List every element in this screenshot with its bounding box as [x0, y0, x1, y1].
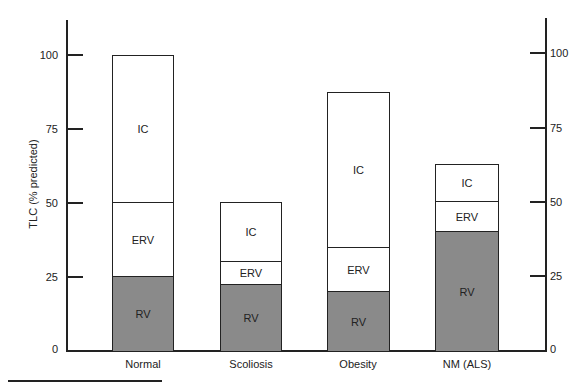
left-tick-label-0: 0 [28, 343, 58, 355]
right-tick-label-50: 50 [550, 196, 580, 208]
segment-ic: IC [112, 55, 174, 203]
segment-rv: RV [112, 276, 174, 352]
left-y-axis [66, 20, 68, 352]
right-tick-label-25: 25 [550, 270, 580, 282]
segment-label: IC [246, 226, 257, 238]
segment-label: RV [243, 312, 258, 324]
segment-label: ERV [347, 264, 369, 276]
y-axis-label: TLC (% predicted) [27, 124, 39, 244]
left-tick-50 [68, 202, 83, 204]
segment-erv: ERV [327, 247, 390, 292]
category-label-normal: Normal [93, 358, 193, 370]
segment-ic: IC [327, 92, 390, 248]
segment-label: IC [462, 177, 473, 189]
segment-erv: ERV [112, 202, 174, 277]
segment-erv: ERV [435, 201, 499, 232]
segment-label: IC [353, 164, 364, 176]
segment-label: RV [135, 308, 150, 320]
right-tick-label-0: 0 [550, 343, 580, 355]
left-tick-label-25: 25 [28, 271, 58, 283]
category-label-obesity: Obesity [308, 358, 408, 370]
left-tick-75 [68, 128, 83, 130]
left-tick-25 [68, 276, 83, 278]
segment-rv: RV [327, 291, 390, 352]
category-label-nm-als: NM (ALS) [417, 358, 517, 370]
segment-rv: RV [435, 231, 499, 352]
segment-label: RV [459, 286, 474, 298]
right-tick-label-100: 100 [550, 47, 580, 59]
footnote-divider [8, 380, 162, 382]
segment-rv: RV [220, 284, 282, 352]
segment-ic: IC [220, 202, 282, 262]
segment-ic: IC [435, 164, 499, 202]
left-tick-label-100: 100 [28, 49, 58, 61]
right-tick-50 [530, 201, 545, 203]
segment-label: RV [351, 316, 366, 328]
left-tick-label-75: 75 [28, 123, 58, 135]
segment-label: ERV [240, 267, 262, 279]
right-tick-100 [530, 52, 545, 54]
right-tick-25 [530, 275, 545, 277]
right-tick-75 [530, 127, 545, 129]
segment-erv: ERV [220, 261, 282, 285]
left-tick-100 [68, 54, 83, 56]
left-tick-label-50: 50 [28, 197, 58, 209]
segment-label: IC [138, 123, 149, 135]
segment-label: ERV [132, 234, 154, 246]
right-y-axis [545, 18, 547, 352]
category-label-scoliosis: Scoliosis [201, 358, 301, 370]
right-tick-label-75: 75 [550, 122, 580, 134]
segment-label: ERV [456, 211, 478, 223]
